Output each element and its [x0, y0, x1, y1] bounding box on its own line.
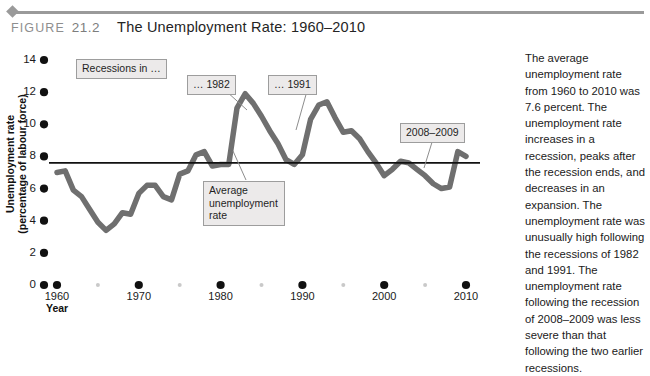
ytick-dot — [40, 184, 48, 192]
xtick-label: 1970 — [117, 290, 161, 302]
xtick-dot — [380, 281, 388, 289]
xtick-label: 2000 — [362, 290, 406, 302]
ytick-label: 10 — [14, 117, 36, 129]
xtick-label: 1980 — [199, 290, 243, 302]
ytick-label: 8 — [14, 149, 36, 161]
xtick-minor-dot — [96, 283, 100, 287]
ytick-label: 14 — [14, 53, 36, 65]
xtick-minor-dot — [260, 283, 264, 287]
callout-leader-line — [296, 91, 307, 130]
x-axis-title: Year — [46, 302, 68, 314]
ytick-label: 2 — [14, 246, 36, 258]
ytick-dot — [40, 281, 48, 289]
header-rule — [10, 11, 644, 14]
axis-minor-tick-dots — [96, 283, 427, 287]
xtick-minor-dot — [341, 283, 345, 287]
header-diamond-marker — [6, 5, 19, 18]
figure-header: FIGURE 21.2 The Unemployment Rate: 1960–… — [11, 19, 365, 35]
axis-tick-dots — [40, 56, 470, 289]
ytick-dot — [40, 56, 48, 64]
ytick-label: 4 — [14, 214, 36, 226]
side-text-paragraph: The average unemployment rate from 1960 … — [525, 50, 647, 376]
xtick-dot — [53, 281, 61, 289]
ytick-dot — [40, 88, 48, 96]
recession-1991-callout: … 1991 — [268, 75, 317, 95]
chart-region: Unemployment rate (percentage of labour … — [0, 44, 512, 321]
figure-title: The Unemployment Rate: 1960–2010 — [117, 19, 365, 35]
side-text-panel: The average unemployment rate from 1960 … — [525, 50, 647, 376]
xtick-minor-dot — [423, 283, 427, 287]
recessions-callout: Recessions in … — [76, 59, 167, 79]
recession-1982-callout: … 1982 — [187, 75, 236, 95]
ytick-label: 12 — [14, 85, 36, 97]
ytick-dot — [40, 217, 48, 225]
figure-number: 21.2 — [72, 20, 100, 35]
xtick-label: 1960 — [35, 290, 79, 302]
ytick-dot — [40, 120, 48, 128]
ytick-label: 0 — [14, 278, 36, 290]
ytick-dot — [40, 249, 48, 257]
xtick-label: 1990 — [280, 290, 324, 302]
figure-label: FIGURE — [11, 21, 65, 35]
xtick-minor-dot — [178, 283, 182, 287]
xtick-dot — [217, 281, 225, 289]
recession-2008-2009-callout: 2008–2009 — [400, 123, 465, 143]
xtick-label: 2010 — [444, 290, 488, 302]
average-rate-callout: Average unemployment rate — [203, 181, 285, 226]
xtick-dot — [462, 281, 470, 289]
ytick-label: 6 — [14, 182, 36, 194]
xtick-dot — [135, 281, 143, 289]
callout-leader-line — [233, 151, 246, 180]
ytick-dot — [40, 152, 48, 160]
xtick-dot — [298, 281, 306, 289]
